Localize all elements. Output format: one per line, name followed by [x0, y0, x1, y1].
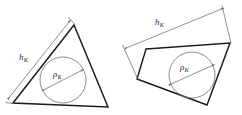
- quadrilateral-panel: [123, 6, 232, 106]
- quadrilateral-diameter-tick-start: [123, 45, 139, 80]
- triangle-inradius-label: ρK: [53, 70, 62, 79]
- triangle-diameter-subscript: K: [24, 56, 28, 63]
- triangle-panel: [6, 18, 109, 108]
- quadrilateral-inradius-label: ρK: [180, 63, 189, 72]
- triangle-diameter-symbol: h: [19, 52, 24, 62]
- quadrilateral-diameter-tick-end: [222, 6, 231, 44]
- quadrilateral-outline: [137, 43, 230, 105]
- triangle-inradius-subscript: K: [58, 73, 62, 80]
- quadrilateral-diameter-symbol: h: [155, 17, 160, 27]
- triangle-outline: [13, 25, 108, 107]
- quadrilateral-diameter-label: hK: [155, 18, 164, 27]
- triangle-diameter-tick-start: [6, 103, 14, 104]
- triangle-inradius-symbol: ρ: [53, 69, 57, 79]
- figure-root: hK ρK hK ρK: [0, 0, 242, 115]
- geometry-figure: [0, 0, 242, 115]
- quadrilateral-diameter-arrow: [125, 8, 224, 49]
- quadrilateral-diameter-subscript: K: [160, 21, 164, 28]
- triangle-diameter-arrow: [8, 20, 71, 99]
- triangle-diameter-label: hK: [19, 53, 28, 62]
- quadrilateral-inradius-symbol: ρ: [180, 62, 184, 72]
- quadrilateral-inradius-arrow: [169, 65, 215, 86]
- triangle-inradius-arrow: [43, 70, 84, 91]
- quadrilateral-inradius-subscript: K: [185, 66, 189, 73]
